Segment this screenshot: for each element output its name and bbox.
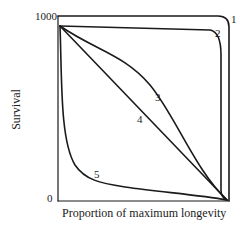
curve-2-label: 2 (215, 28, 221, 39)
curve-3-label: 3 (155, 92, 161, 103)
curve-4 (60, 26, 227, 200)
curve-1-label: 1 (231, 14, 237, 25)
survivorship-chart (0, 0, 246, 227)
y-tick-0: 0 (47, 193, 53, 204)
curve-4-label: 4 (137, 114, 143, 125)
x-axis-label: Proportion of maximum longevity (62, 206, 226, 221)
curve-5-label: 5 (94, 169, 100, 180)
y-axis-label: Survival (9, 80, 24, 140)
y-tick-1000: 1000 (35, 11, 57, 22)
